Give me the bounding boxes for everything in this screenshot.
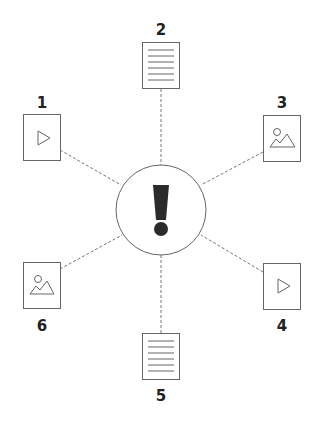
- node-2-document[interactable]: [143, 43, 180, 89]
- connector-1: [60, 150, 121, 185]
- exclamation-icon: [153, 185, 169, 236]
- connector-3: [201, 152, 263, 185]
- connector-6: [60, 235, 122, 269]
- node-label-5: 5: [141, 388, 181, 404]
- node-1-video[interactable]: [24, 115, 61, 161]
- hub-diagram: [0, 0, 322, 422]
- node-label-1: 1: [22, 95, 62, 111]
- node-label-6: 6: [22, 318, 62, 334]
- node-label-4: 4: [262, 318, 302, 334]
- center-hub: [116, 165, 206, 255]
- node-label-3: 3: [262, 95, 302, 111]
- node-6-image[interactable]: [24, 263, 61, 309]
- node-5-document[interactable]: [143, 334, 180, 380]
- connector-4: [201, 235, 263, 272]
- node-label-2: 2: [141, 22, 181, 38]
- node-4-video[interactable]: [264, 264, 301, 310]
- node-3-image[interactable]: [264, 116, 301, 162]
